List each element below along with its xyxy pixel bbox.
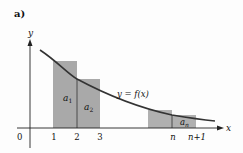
origin-label: 0 — [17, 132, 22, 142]
tick-label-n: n — [170, 132, 175, 142]
label-a1-sub: 1 — [68, 97, 72, 104]
curve-label: y = f(x) — [116, 89, 149, 99]
tick-label-3: 3 — [97, 132, 102, 142]
x-axis-label: x — [226, 123, 231, 133]
tick-label-n-plus-1: n+1 — [188, 132, 206, 142]
panel-label: a) — [14, 8, 25, 19]
tick-label-1: 1 — [51, 132, 56, 142]
y-axis-label: y — [27, 28, 34, 38]
label-an-sub: n — [185, 121, 189, 128]
y-axis-arrow-icon — [28, 39, 33, 46]
integral-test-diagram: a) y x 0 1 2 3 n n+1 y = f(x) a1 a2 an — [0, 0, 243, 153]
label-a2-sub: 2 — [89, 106, 93, 113]
tick-label-2: 2 — [74, 132, 79, 142]
x-axis-arrow-icon — [217, 126, 224, 131]
